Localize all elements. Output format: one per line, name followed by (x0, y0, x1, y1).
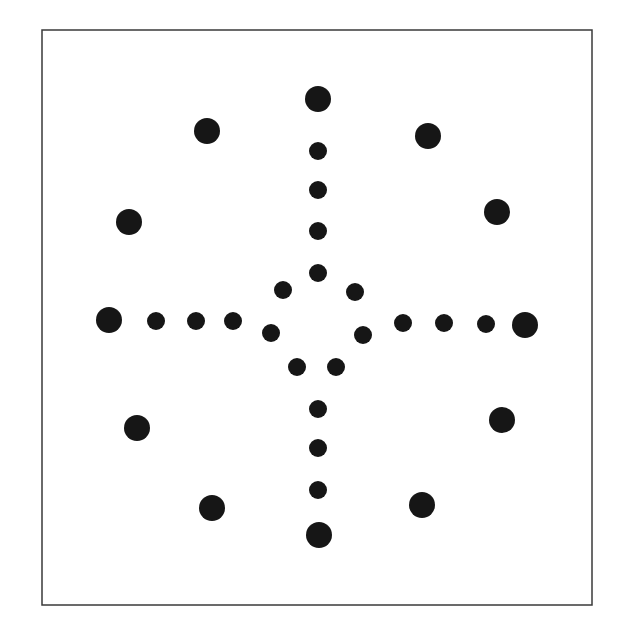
inner-dot-lower-left (288, 358, 306, 376)
inner-dot-upper-right (346, 283, 364, 301)
outer-dot-left-upper (116, 209, 142, 235)
diagram-canvas (0, 0, 619, 640)
spoke-dot-up-4 (309, 264, 327, 282)
spoke-dot-down-2 (309, 439, 327, 457)
spoke-dot-up-1 (309, 142, 327, 160)
spoke-dot-down-3 (309, 481, 327, 499)
spoke-dot-right-1 (394, 314, 412, 332)
spoke-dot-down-1 (309, 400, 327, 418)
spoke-dots (147, 142, 495, 499)
spoke-dot-left-1 (147, 312, 165, 330)
outer-dot-bottom-right (409, 492, 435, 518)
spoke-dot-right-2 (435, 314, 453, 332)
outer-dot-top-right (415, 123, 441, 149)
outer-dot-bottom-left (199, 495, 225, 521)
spoke-dot-left-3 (224, 312, 242, 330)
spoke-dot-left-2 (187, 312, 205, 330)
outer-dot-right-lower (489, 407, 515, 433)
diagram-frame (42, 30, 592, 605)
inner-dot-mid-right (354, 326, 372, 344)
outer-dot-right-upper (484, 199, 510, 225)
inner-dot-mid-left (262, 324, 280, 342)
inner-dot-lower-right (327, 358, 345, 376)
spoke-dot-up-2 (309, 181, 327, 199)
dot-pattern-diagram (0, 0, 619, 640)
outer-dot-right (512, 312, 538, 338)
spoke-dot-up-3 (309, 222, 327, 240)
inner-dot-upper-left (274, 281, 292, 299)
outer-dot-bottom (306, 522, 332, 548)
outer-dot-left (96, 307, 122, 333)
outer-dot-left-lower (124, 415, 150, 441)
outer-dot-top-left (194, 118, 220, 144)
inner-ring-dots (262, 281, 372, 376)
spoke-dot-right-3 (477, 315, 495, 333)
outer-dot-top (305, 86, 331, 112)
